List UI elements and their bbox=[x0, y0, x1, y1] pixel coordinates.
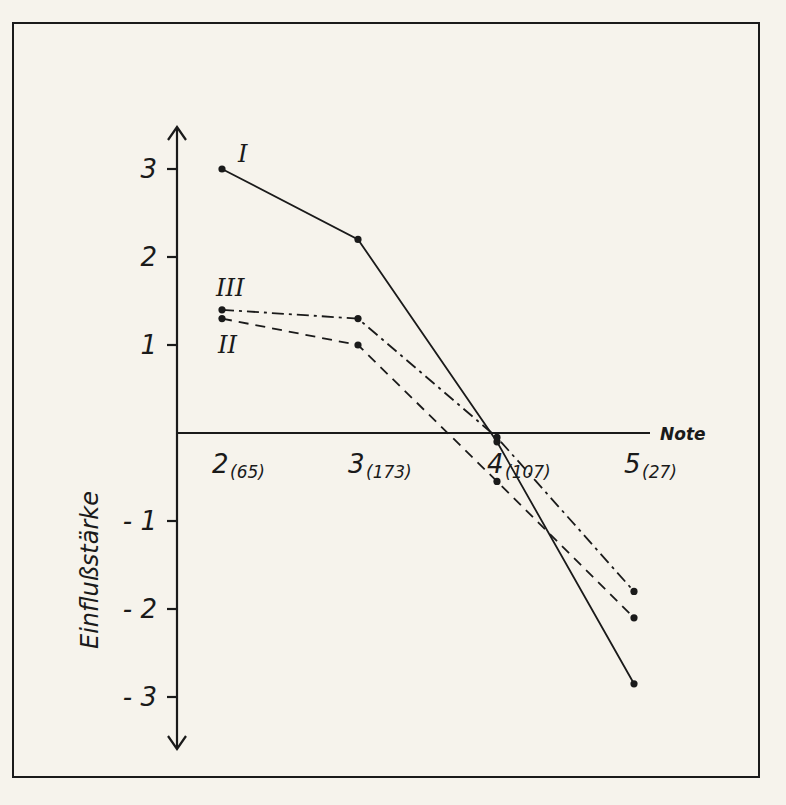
data-point bbox=[354, 315, 361, 322]
x-count-label: (65) bbox=[230, 462, 265, 482]
y-tick-label: - 1 bbox=[123, 506, 157, 536]
x-axis-label: Note bbox=[660, 424, 706, 444]
x-tick-label: 5 bbox=[624, 449, 641, 479]
series-group bbox=[218, 165, 637, 687]
x-count-label: (173) bbox=[366, 462, 412, 482]
data-point bbox=[218, 165, 225, 172]
series-label-I: I bbox=[237, 140, 248, 168]
data-point bbox=[218, 306, 225, 313]
data-point bbox=[354, 341, 361, 348]
y-tick-label: - 2 bbox=[123, 594, 157, 624]
y-tick-label: 1 bbox=[140, 330, 157, 360]
data-point bbox=[630, 680, 637, 687]
y-tick-label: 2 bbox=[140, 242, 157, 272]
x-tick-label: 2 bbox=[212, 449, 229, 479]
labels: 321- 1- 2- 32(65)3(173)4(107)5(27)NoteEi… bbox=[76, 140, 706, 712]
y-tick-label: 3 bbox=[140, 154, 157, 184]
data-point bbox=[493, 434, 500, 441]
line-chart: 321- 1- 2- 32(65)3(173)4(107)5(27)NoteEi… bbox=[0, 0, 786, 805]
series-label-II: II bbox=[217, 331, 237, 359]
series-line-I bbox=[222, 169, 634, 684]
x-tick-label: 3 bbox=[348, 449, 365, 479]
x-count-label: (107) bbox=[505, 462, 551, 482]
x-count-label: (27) bbox=[642, 462, 677, 482]
series-line-III bbox=[222, 310, 634, 592]
y-axis-label: Einflußstärke bbox=[76, 491, 104, 649]
data-point bbox=[218, 315, 225, 322]
data-point bbox=[354, 236, 361, 243]
data-point bbox=[630, 588, 637, 595]
x-tick-label: 4 bbox=[487, 449, 504, 479]
axes bbox=[167, 127, 650, 749]
y-tick-label: - 3 bbox=[123, 682, 157, 712]
data-point bbox=[630, 614, 637, 621]
series-label-III: III bbox=[215, 274, 245, 302]
